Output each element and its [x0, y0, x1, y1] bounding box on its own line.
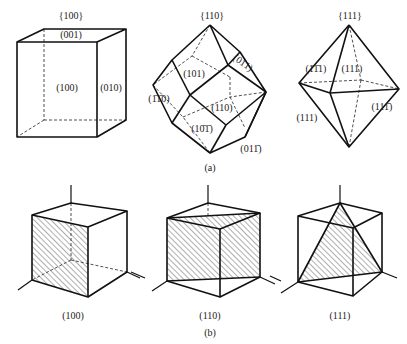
octahedron-drawing — [299, 25, 399, 147]
dodeca-face-center-label: (110) — [211, 102, 232, 114]
cube-face-side-label: (010) — [100, 82, 122, 94]
plane-111-label: (111) — [330, 310, 351, 322]
dodeca-face-lower-left-label: (10̄1̄) — [191, 123, 213, 135]
octahedron-family-label: {111} — [338, 10, 362, 21]
cube-plane-110-drawing — [131, 185, 275, 297]
plane-110-label: (110) — [199, 310, 220, 322]
cube-face-top-label: (001) — [60, 29, 82, 41]
octa-face-upper-front-label: (111) — [342, 63, 363, 75]
octa-face-lower-left-label: (111) — [297, 112, 318, 124]
cube-family-label: {100} — [59, 10, 84, 21]
crystal-figure: {100} (001) (100) (010) {110} (011) (101… — [0, 0, 407, 344]
octa-face-lower-right-label: (111̄) — [372, 101, 393, 113]
cube-plane-111-drawing — [270, 185, 397, 296]
dodeca-face-upper-left-label: (101) — [183, 68, 205, 80]
caption-b: (b) — [204, 327, 216, 339]
dodeca-family-label: {110} — [200, 10, 224, 21]
dodeca-face-left-label: (1̄1̄0) — [148, 93, 169, 105]
plane-100-label: (100) — [62, 310, 84, 322]
octa-face-upper-left-label: (1̄1̄1) — [306, 63, 327, 75]
cube-plane-100-drawing — [18, 185, 140, 297]
cube-face-front-label: (100) — [56, 82, 78, 94]
dodeca-face-lower-right-label: (011̄) — [240, 143, 261, 155]
caption-a: (a) — [204, 162, 215, 174]
